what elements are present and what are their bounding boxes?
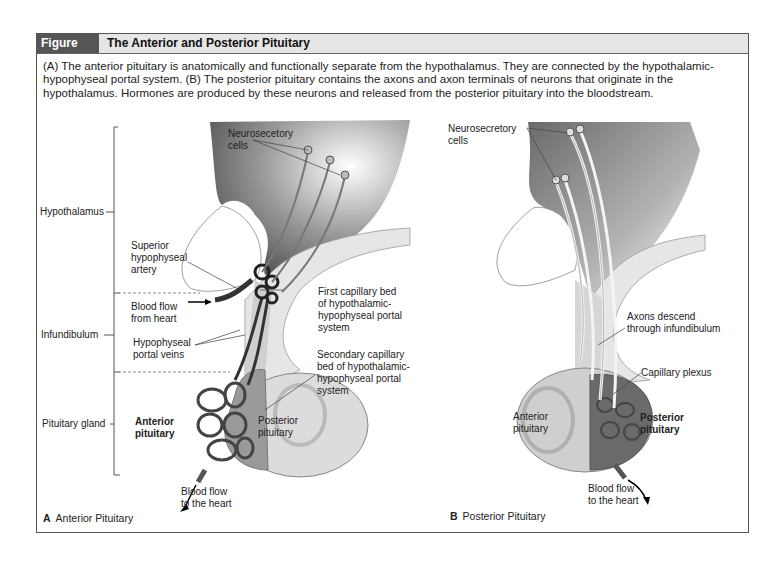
pituitary-illustration bbox=[0, 0, 759, 561]
label-axons-descend: Axons descend through infundibulum bbox=[627, 311, 720, 335]
label-infundibulum: Infundibulum bbox=[41, 329, 98, 341]
label-a-blood-flow-to-heart: Blood flow to the heart bbox=[181, 486, 232, 510]
label-secondary-capillary-bed: Secondary capillary bed of hypothalamic-… bbox=[317, 349, 410, 397]
label-b-neurosecretory: Neurosecretory cells bbox=[448, 123, 516, 147]
label-a-neurosecretory: Neurosecetory cells bbox=[228, 128, 293, 152]
label-first-capillary-bed: First capillary bed of hypothalamic- hyp… bbox=[318, 286, 402, 334]
label-blood-flow-from-heart: Blood flow from heart bbox=[131, 301, 177, 325]
label-hypothalamus: Hypothalamus bbox=[40, 206, 104, 218]
label-hypophyseal-portal-veins: Hypophyseal portal veins bbox=[133, 337, 191, 361]
label-capillary-plexus: Capillary plexus bbox=[641, 367, 712, 379]
label-b-blood-flow-to-heart: Blood flow to the heart bbox=[588, 483, 639, 507]
label-a-anterior-pituitary: Anterior pituitary bbox=[135, 416, 174, 440]
label-superior-hypophyseal-artery: Superior hypophyseal artery bbox=[131, 240, 187, 276]
panel-b-caption: BPosterior Pituitary bbox=[450, 510, 545, 522]
label-pituitary-gland: Pituitary gland bbox=[42, 418, 105, 430]
panel-a-caption: AAnterior Pituitary bbox=[43, 512, 133, 524]
label-a-posterior-pituitary: Posterior pituitary bbox=[258, 415, 298, 439]
label-b-anterior-pituitary: Anterior pituitary bbox=[513, 411, 548, 435]
label-b-posterior-pituitary: Posterior pituitary bbox=[640, 412, 684, 436]
